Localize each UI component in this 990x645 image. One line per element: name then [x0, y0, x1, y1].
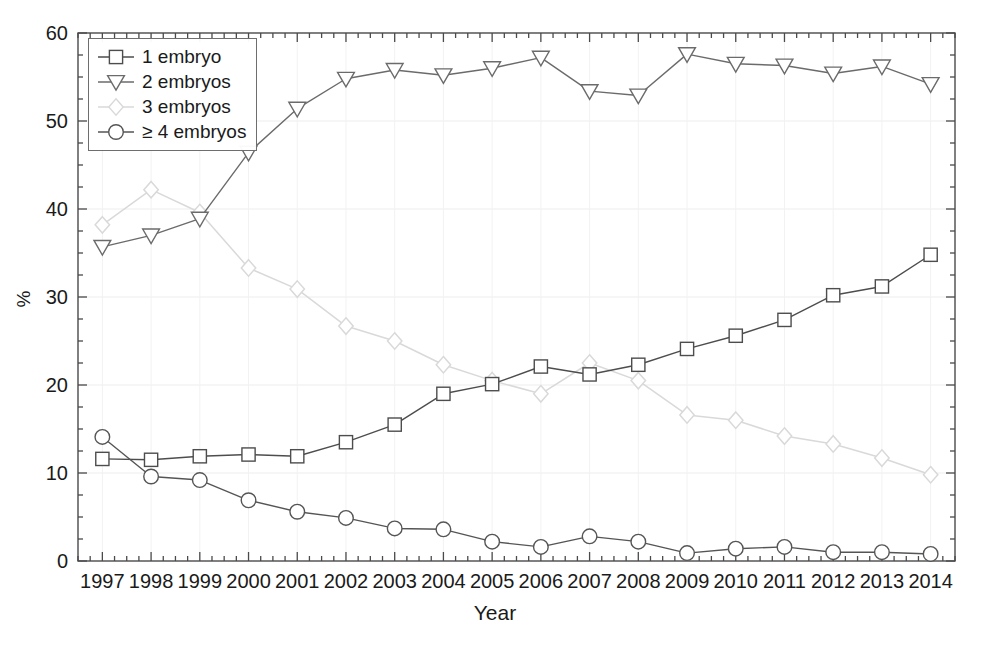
x-tick-label: 1999 — [178, 570, 223, 593]
x-tick-label: 2004 — [421, 570, 466, 593]
diamond-marker-icon — [97, 97, 135, 117]
legend-item-1-embryo[interactable]: 1 embryo — [97, 44, 246, 69]
x-tick-label: 1998 — [129, 570, 174, 593]
x-tick-label: 2008 — [616, 570, 661, 593]
y-tick-label: 40 — [24, 198, 68, 221]
x-tick-label: 2010 — [714, 570, 759, 593]
chart-legend: 1 embryo2 embryos3 embryos≥ 4 embryos — [88, 38, 257, 151]
x-axis-title: Year — [0, 601, 990, 625]
series--4-embryos — [95, 430, 938, 562]
x-tick-label: 2005 — [470, 570, 515, 593]
x-tick-label: 2011 — [763, 570, 806, 593]
x-tick-label: 2013 — [860, 570, 905, 593]
legend-item-label: ≥ 4 embryos — [142, 121, 246, 143]
x-tick-label: 2009 — [665, 570, 710, 593]
x-tick-label: 1997 — [80, 570, 125, 593]
y-tick-label: 10 — [24, 462, 68, 485]
square-marker-icon — [97, 47, 135, 67]
legend-item-label: 3 embryos — [142, 96, 231, 118]
series-3-embryos — [95, 181, 938, 483]
chart-container: 0102030405060 19971998199920002001200220… — [0, 0, 990, 645]
x-tick-label: 2000 — [226, 570, 271, 593]
x-tick-label: 2002 — [324, 570, 369, 593]
triangle-down-marker-icon — [97, 72, 135, 92]
y-tick-label: 50 — [24, 110, 68, 133]
x-tick-label: 2014 — [908, 570, 953, 593]
y-axis-title: % — [13, 291, 35, 308]
x-tick-label: 2007 — [567, 570, 612, 593]
legend-item-2-embryos[interactable]: 2 embryos — [97, 69, 246, 94]
x-tick-label: 2001 — [275, 570, 320, 593]
legend-item-label: 1 embryo — [142, 46, 221, 68]
x-tick-label: 2003 — [372, 570, 417, 593]
x-tick-label: 2012 — [811, 570, 856, 593]
series-1-embryo — [96, 248, 937, 466]
circle-marker-icon — [97, 122, 135, 142]
y-tick-label: 60 — [24, 22, 68, 45]
legend-item-3-embryos[interactable]: 3 embryos — [97, 94, 246, 119]
y-tick-label: 0 — [24, 550, 68, 573]
legend-item--4-embryos[interactable]: ≥ 4 embryos — [97, 119, 246, 144]
y-tick-label: 20 — [24, 374, 68, 397]
x-tick-label: 2006 — [519, 570, 564, 593]
legend-item-label: 2 embryos — [142, 71, 231, 93]
